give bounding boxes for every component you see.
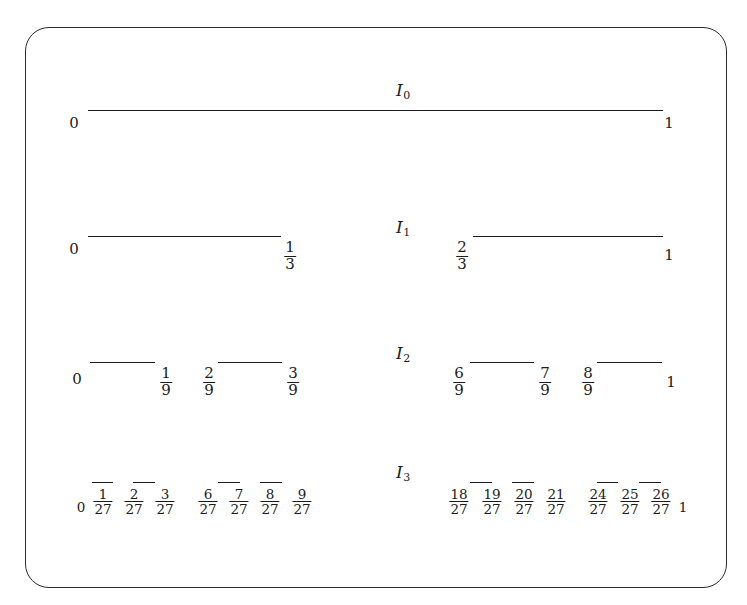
fraction: 927	[292, 487, 311, 516]
fraction-numerator: 2	[124, 487, 143, 502]
row-label-i0: I0	[396, 80, 410, 100]
tick-label: 2627	[651, 487, 670, 516]
tick-value: 0	[72, 370, 82, 388]
tick-label: 127	[93, 487, 112, 516]
fraction-denominator: 27	[588, 502, 607, 516]
fraction: 69	[453, 366, 465, 398]
figure-canvas: I001I1013231I201929396979891I30127227327…	[0, 0, 747, 605]
fraction-denominator: 9	[203, 383, 215, 399]
fraction-numerator: 1	[93, 487, 112, 502]
fraction-denominator: 27	[260, 502, 279, 516]
interval-segment	[597, 362, 662, 363]
fraction: 2127	[546, 487, 565, 516]
fraction: 227	[124, 487, 143, 516]
fraction-denominator: 27	[292, 502, 311, 516]
fraction-denominator: 9	[453, 383, 465, 399]
tick-label: 79	[539, 366, 551, 398]
fraction-denominator: 9	[539, 383, 551, 399]
tick-label: 2527	[620, 487, 639, 516]
tick-label: 827	[260, 487, 279, 516]
fraction: 2527	[620, 487, 639, 516]
fraction-numerator: 26	[651, 487, 670, 502]
row-label-letter: I	[396, 217, 403, 237]
row-label-i3: I3	[396, 462, 410, 482]
interval-segment	[90, 362, 155, 363]
fraction-denominator: 27	[449, 502, 468, 516]
tick-label: 13	[284, 240, 296, 272]
tick-label: 0	[69, 116, 79, 132]
fraction-numerator: 21	[546, 487, 565, 502]
fraction: 327	[155, 487, 174, 516]
fraction: 79	[539, 366, 551, 398]
tick-label: 2427	[588, 487, 607, 516]
interval-segment	[597, 482, 618, 483]
fraction-denominator: 27	[93, 502, 112, 516]
fraction-numerator: 3	[155, 487, 174, 502]
row-label-letter: I	[396, 343, 403, 363]
fraction-numerator: 6	[198, 487, 217, 502]
fraction-denominator: 27	[620, 502, 639, 516]
fraction-numerator: 25	[620, 487, 639, 502]
fraction-denominator: 9	[582, 383, 594, 399]
row-label-index: 0	[403, 89, 410, 102]
interval-segment	[470, 362, 534, 363]
fraction: 1827	[449, 487, 468, 516]
tick-label: 2127	[546, 487, 565, 516]
fraction-denominator: 27	[482, 502, 501, 516]
tick-label: 69	[453, 366, 465, 398]
tick-label: 727	[229, 487, 248, 516]
fraction-numerator: 19	[482, 487, 501, 502]
tick-label: 0	[69, 242, 79, 258]
tick-value: 1	[666, 373, 676, 391]
tick-label: 1927	[482, 487, 501, 516]
fraction-denominator: 27	[546, 502, 565, 516]
fraction-numerator: 7	[229, 487, 248, 502]
tick-label: 627	[198, 487, 217, 516]
tick-label: 39	[287, 366, 299, 398]
tick-label: 1	[679, 500, 688, 514]
row-label-letter: I	[396, 462, 403, 482]
row-label-index: 3	[403, 471, 410, 484]
interval-segment	[88, 110, 663, 111]
interval-segment	[470, 482, 492, 483]
tick-label: 2027	[514, 487, 533, 516]
tick-label: 227	[124, 487, 143, 516]
interval-segment	[473, 236, 663, 237]
fraction-denominator: 27	[124, 502, 143, 516]
tick-label: 0	[72, 372, 82, 388]
fraction: 23	[456, 240, 468, 272]
tick-value: 0	[69, 114, 79, 132]
tick-value: 1	[679, 499, 688, 515]
row-label-index: 2	[403, 352, 410, 365]
interval-segment	[133, 482, 155, 483]
tick-label: 29	[203, 366, 215, 398]
tick-label: 89	[582, 366, 594, 398]
tick-label: 1	[664, 248, 674, 264]
fraction: 19	[160, 366, 172, 398]
interval-segment	[639, 482, 661, 483]
fraction-numerator: 24	[588, 487, 607, 502]
tick-value: 1	[664, 246, 674, 264]
row-label-i2: I2	[396, 343, 410, 363]
tick-label: 1	[664, 116, 674, 132]
fraction-denominator: 27	[514, 502, 533, 516]
tick-label: 19	[160, 366, 172, 398]
fraction-denominator: 27	[198, 502, 217, 516]
fraction: 29	[203, 366, 215, 398]
tick-label: 0	[77, 500, 86, 514]
interval-segment	[88, 236, 281, 237]
fraction: 1927	[482, 487, 501, 516]
interval-segment	[92, 482, 113, 483]
interval-segment	[218, 482, 240, 483]
fraction: 127	[93, 487, 112, 516]
fraction-numerator: 18	[449, 487, 468, 502]
fraction-denominator: 27	[651, 502, 670, 516]
tick-label: 23	[456, 240, 468, 272]
tick-label: 1	[666, 375, 676, 391]
row-label-index: 1	[403, 226, 410, 239]
row-label-letter: I	[396, 80, 403, 100]
fraction: 727	[229, 487, 248, 516]
fraction: 2627	[651, 487, 670, 516]
interval-segment	[512, 482, 534, 483]
tick-label: 1827	[449, 487, 468, 516]
